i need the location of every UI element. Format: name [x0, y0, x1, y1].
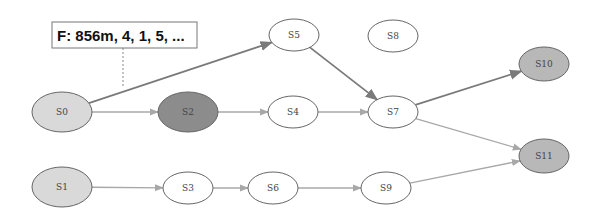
node-label: S11 [535, 151, 553, 161]
node-s0[interactable]: S0 [32, 92, 92, 132]
edge-s7-s11 [416, 119, 521, 150]
node-s2[interactable]: S2 [158, 92, 218, 132]
node-s3[interactable]: S3 [163, 172, 213, 204]
node-label: S6 [267, 183, 279, 193]
node-s6[interactable]: S6 [248, 172, 298, 204]
node-s7[interactable]: S7 [368, 96, 418, 128]
node-label: S1 [56, 182, 68, 192]
callout-text: F: 856m, 4, 1, 5, ... [57, 27, 185, 44]
edge-s1-s3 [92, 187, 163, 188]
node-s1[interactable]: S1 [32, 167, 92, 207]
callout: F: 856m, 4, 1, 5, ... [52, 22, 197, 86]
node-label: S5 [288, 30, 300, 40]
node-label: S9 [380, 183, 392, 193]
edge-s7-s10 [415, 71, 521, 105]
node-label: S4 [287, 107, 299, 117]
edge-s9-s11 [410, 161, 520, 183]
node-s11[interactable]: S11 [519, 139, 569, 173]
node-label: S2 [182, 107, 194, 117]
node-s8[interactable]: S8 [368, 20, 418, 52]
node-label: S0 [56, 107, 68, 117]
node-label: S8 [387, 31, 399, 41]
state-graph-canvas: F: 856m, 4, 1, 5, ... S0S1S2S3S4S5S6S7S8… [0, 0, 598, 217]
node-label: S7 [387, 107, 399, 117]
edge-s5-s7 [310, 47, 377, 99]
node-label: S10 [535, 59, 553, 69]
node-s9[interactable]: S9 [361, 172, 411, 204]
node-s4[interactable]: S4 [268, 96, 318, 128]
node-s5[interactable]: S5 [269, 19, 319, 51]
node-label: S3 [182, 183, 194, 193]
node-s10[interactable]: S10 [519, 47, 569, 81]
